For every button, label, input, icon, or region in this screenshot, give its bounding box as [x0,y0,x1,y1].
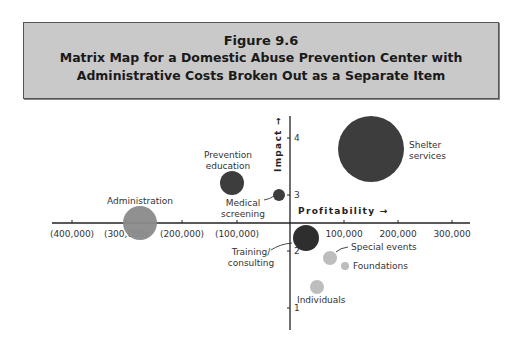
matrix-map-chart: (400,000) (300,000) (200,000) (100,000) … [0,0,519,350]
label-individuals: Individuals [297,295,346,305]
label-training-2: consulting [228,258,275,268]
x-tick-label: (400,000) [50,229,94,239]
label-prevention-1: Prevention [204,150,252,160]
bubble-prevention-education [220,171,244,195]
bubble-medical-screening [273,189,285,201]
label-medical-2: screening [221,209,265,219]
label-shelter-2: services [409,151,446,161]
label-administration: Administration [107,196,173,206]
leader-line-special-events [336,247,348,252]
leader-line-training [271,243,292,250]
bubble-foundations [341,262,349,270]
label-shelter-1: Shelter [409,140,442,150]
label-foundations: Foundations [353,261,408,271]
label-training-1: Training/ [231,247,272,257]
x-tick-label: 100,000 [325,229,362,239]
x-tick-label: (100,000) [215,229,259,239]
bubble-individuals [310,280,324,294]
y-axis-title: Impact → [273,116,283,172]
x-tick-label: 200,000 [379,229,416,239]
leader-line-medical [264,196,274,200]
bubble-special-events [323,251,337,265]
bubble-shelter-services [338,116,404,182]
x-tick-label: 300,000 [433,229,470,239]
y-tick-label: 3 [294,190,300,200]
label-medical-1: Medical [226,198,260,208]
label-prevention-2: education [206,161,251,171]
label-special-events: Special events [351,242,417,252]
bubble-training-consulting [293,225,319,251]
bubble-administration [123,206,157,240]
y-tick-label: 4 [294,133,300,143]
x-tick-label: (200,000) [160,229,204,239]
x-axis-title: Profitability → [298,206,389,216]
